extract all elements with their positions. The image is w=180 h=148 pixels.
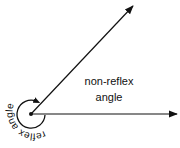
angle-diagram: non-reflex angle reflex angle — [0, 0, 180, 148]
non-reflex-label-line2: angle — [96, 91, 123, 103]
non-reflex-label-line1: non-reflex — [85, 75, 134, 87]
reflex-label: reflex angle — [3, 102, 47, 143]
reflex-label-path: reflex angle — [3, 102, 47, 143]
vertex-point — [29, 112, 33, 116]
